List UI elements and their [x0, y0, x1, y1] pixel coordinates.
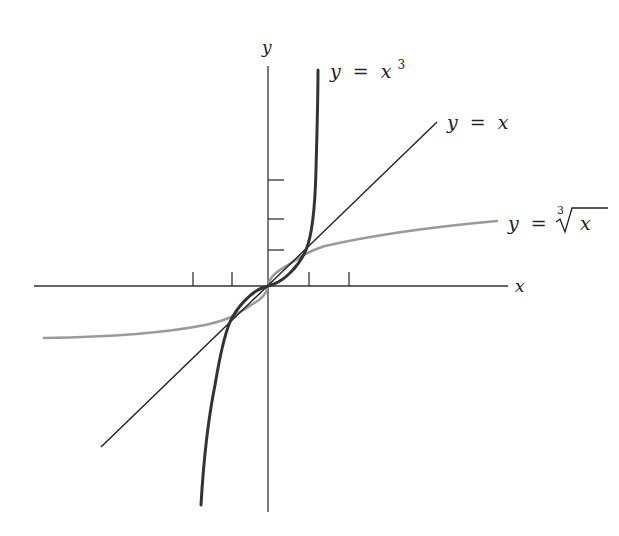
- cube-curve: [201, 70, 318, 505]
- cuberoot-label-index: 3: [557, 204, 564, 217]
- function-graph: x y y = x 3 y = x y = 3 x: [0, 0, 619, 536]
- x-axis-label: x: [515, 276, 525, 296]
- cuberoot-label-radicand: x: [580, 212, 591, 234]
- svg-text:y = x 3: y = x 3: [329, 58, 405, 82]
- svg-text:y = x: y = x: [446, 111, 509, 133]
- cube-label: y = x 3: [329, 58, 405, 82]
- y-axis-label: y: [261, 37, 272, 57]
- cuberoot-label: y = 3 x: [507, 204, 608, 234]
- identity-label-rhs: x: [498, 111, 509, 133]
- cube-label-base: x: [381, 60, 392, 82]
- identity-label-lhs: y: [446, 111, 458, 133]
- y-ticks: [268, 180, 284, 250]
- cuberoot-curve: [44, 221, 497, 338]
- cube-label-eq: =: [353, 60, 369, 82]
- identity-label-eq: =: [470, 111, 486, 133]
- identity-label: y = x: [446, 111, 509, 133]
- cuberoot-label-eq: =: [531, 212, 547, 234]
- cube-label-lhs: y: [329, 60, 341, 82]
- cube-label-exp: 3: [398, 58, 406, 72]
- cuberoot-label-lhs: y: [507, 212, 519, 234]
- svg-text:y =: y =: [507, 212, 547, 234]
